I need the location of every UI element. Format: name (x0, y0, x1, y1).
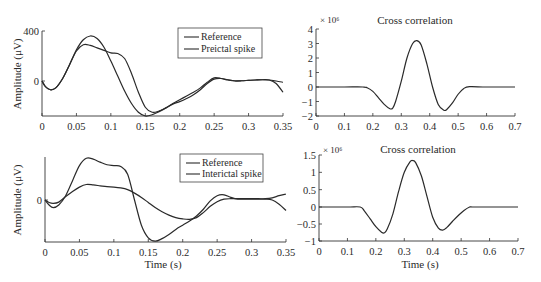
y-tick-label: 1.5 (303, 150, 316, 161)
x-tick-label: 0.1 (338, 121, 351, 132)
series-line-cross-correlation (316, 41, 515, 111)
y-tick-label: 0 (311, 202, 316, 213)
xlabel-bottom-right: Time (s) (401, 258, 439, 271)
x-tick-label: 0.25 (208, 247, 226, 258)
title-top-right: Cross correlation (377, 14, 453, 26)
ylabel-top-left: Amplitude (μV) (11, 38, 24, 109)
x-tick-label: 0.35 (274, 121, 292, 132)
chart-top-right-cross-correlation: 00.10.20.30.40.50.60.7−2−101234 (302, 24, 522, 132)
x-tick-label: 0.4 (426, 246, 440, 257)
x-tick-label: 0.2 (366, 121, 379, 132)
legend-entry-preictal-spike: Preictal spike (201, 43, 256, 54)
x-tick-label: 0.05 (67, 121, 85, 132)
x-tick-label: 0.3 (245, 247, 258, 258)
title-bottom-right: Cross correlation (380, 143, 456, 155)
y-tick-label: 1 (308, 68, 313, 79)
x-tick-label: 0.6 (480, 121, 493, 132)
x-tick-label: 0.2 (369, 246, 382, 257)
x-tick-label: 0.4 (423, 121, 437, 132)
y-tick-label: 1 (311, 167, 316, 178)
legend-entry-reference: Reference (202, 157, 243, 168)
x-tick-label: 0 (316, 246, 321, 257)
y-tick-label: 0 (34, 76, 39, 87)
ylabel-bottom-left: Amplitude (μV) (11, 164, 24, 235)
x-tick-label: 0.15 (136, 121, 154, 132)
x-tick-label: 0.3 (242, 121, 255, 132)
x-tick-label: 0.2 (173, 121, 186, 132)
x-tick-label: 0.05 (70, 247, 88, 258)
x-tick-label: 0.5 (452, 121, 465, 132)
y-tick-label: 3 (308, 39, 313, 50)
x-tick-label: 0.2 (176, 247, 189, 258)
y-tick-label: 0 (308, 82, 313, 93)
chart-bottom-right-cross-correlation: 00.10.20.30.40.50.60.7−1−0.500.511.5 (297, 150, 525, 257)
series-line-cross-correlation (319, 160, 518, 233)
x-tick-label: 0 (42, 247, 47, 258)
x-tick-label: 0.3 (398, 246, 411, 257)
y-tick-label: 4 (308, 24, 314, 35)
x-tick-label: 0.7 (508, 121, 521, 132)
y-tick-label: 0.5 (303, 185, 316, 196)
x-tick-label: 0.1 (104, 121, 117, 132)
y-tick-label: 400 (23, 26, 39, 37)
y-tick-label: −2 (302, 111, 313, 122)
x-tick-label: 0.25 (205, 121, 223, 132)
x-tick-label: 0.7 (511, 246, 524, 257)
x-tick-label: 0.5 (455, 246, 468, 257)
y-tick-label: −1 (305, 236, 316, 247)
x-tick-label: 0.6 (483, 246, 496, 257)
legend-entry-reference: Reference (201, 31, 242, 42)
legend-bottom-left: Reference Interictal spike (180, 154, 263, 182)
y-tick-label: 0 (37, 195, 42, 206)
y-tick-label: −1 (302, 97, 313, 108)
x-tick-label: 0.1 (341, 246, 354, 257)
x-tick-label: 0.35 (277, 247, 295, 258)
legend-entry-interictal-spike: Interictal spike (202, 168, 262, 179)
legend-top-left: Reference Preictal spike (178, 28, 262, 58)
x-tick-label: 0.3 (395, 121, 408, 132)
x-tick-label: 0 (39, 121, 44, 132)
x-tick-label: 0 (313, 121, 318, 132)
x-tick-label: 0.1 (107, 247, 120, 258)
scale-label-top-right: × 10⁶ (320, 15, 339, 25)
figure: 00.050.10.150.20.250.30.350400 00.10.20.… (0, 0, 541, 282)
y-tick-label: −0.5 (297, 219, 316, 230)
scale-label-bottom-right: × 10⁶ (323, 145, 342, 155)
xlabel-bottom-left: Time (s) (144, 258, 182, 271)
series-line-interictal-spike (45, 184, 286, 219)
y-tick-label: 2 (308, 53, 313, 64)
x-tick-label: 0.15 (139, 247, 157, 258)
